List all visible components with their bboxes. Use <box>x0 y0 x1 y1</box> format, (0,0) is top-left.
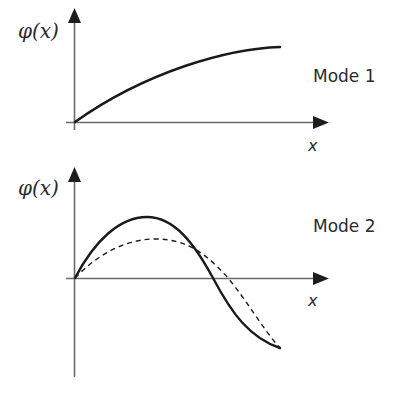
mode-1-y-axis-arrow-icon <box>68 8 81 23</box>
mode-1-x-label: x <box>307 136 318 155</box>
mode-2-phi-label: φ(x) <box>18 176 59 200</box>
mode-2-chart: φ(x) x Mode 2 <box>18 167 376 377</box>
mode-1-x-axis-arrow-icon <box>313 116 329 129</box>
mode-2-x-label: x <box>307 291 318 310</box>
mode-2-title: Mode 2 <box>313 216 376 236</box>
mode-shapes-diagram: φ(x) x Mode 1 φ(x) x Mode 2 <box>0 0 405 399</box>
mode-2-dashed-curve <box>75 239 280 348</box>
mode-1-title: Mode 1 <box>313 66 376 86</box>
mode-2-y-axis-arrow-icon <box>68 167 81 182</box>
mode-2-solid-curve <box>75 217 280 348</box>
mode-2-x-axis-arrow-icon <box>313 272 329 285</box>
mode-1-curve <box>75 47 280 122</box>
mode-1-chart: φ(x) x Mode 1 <box>18 8 376 155</box>
mode-1-phi-label: φ(x) <box>18 19 59 43</box>
